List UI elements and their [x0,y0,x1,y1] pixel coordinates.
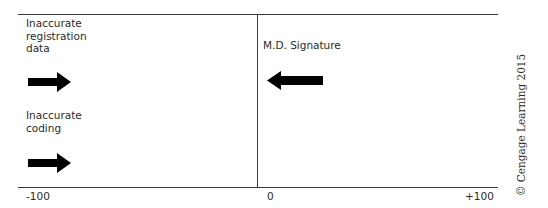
force-label-coding: Inaccurate coding [26,109,82,134]
axis-max-label: +100 [465,190,494,202]
force-label-line: data [26,42,87,55]
right-arrow-icon [28,72,72,92]
force-label-line: Inaccurate [26,17,87,30]
force-label-line: registration [26,30,87,43]
force-label-registration: Inaccurate registration data [26,17,87,55]
force-label-line: coding [26,122,82,135]
force-label-line: Inaccurate [26,109,82,122]
force-label-line: M.D. Signature [263,39,341,52]
center-divider-line [257,14,258,188]
top-border-line [18,14,498,15]
force-label-md-signature: M.D. Signature [263,39,341,52]
axis-center-label: 0 [267,190,274,202]
axis-min-label: -100 [26,190,50,202]
left-arrow-icon [267,71,324,90]
axis-baseline [18,187,498,188]
right-arrow-icon [28,153,72,173]
copyright-credit: © Cengage Learning 2015 [515,54,527,196]
